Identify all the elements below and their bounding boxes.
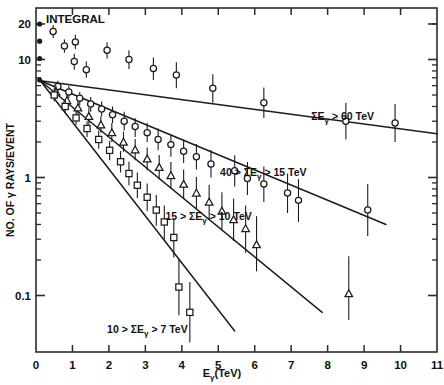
- marker-circle: [181, 148, 187, 154]
- marker-circle: [210, 85, 216, 91]
- marker-square: [144, 194, 150, 200]
- series-2: [52, 86, 352, 320]
- marker-square: [96, 136, 102, 142]
- marker-square: [134, 182, 140, 188]
- marker-circle: [99, 106, 105, 112]
- marker-triangle: [167, 172, 175, 179]
- marker-square: [73, 115, 79, 121]
- marker-triangle: [120, 138, 128, 145]
- marker-triangle: [180, 180, 188, 187]
- marker-square: [107, 147, 113, 153]
- annotation-tail: > 10 TeV: [207, 210, 252, 222]
- marker-square: [126, 170, 132, 176]
- marker-circle: [50, 28, 56, 34]
- marker-square: [153, 207, 159, 213]
- x-tick-label: 10: [394, 359, 407, 371]
- marker-circle: [173, 72, 179, 78]
- marker-square: [176, 284, 182, 290]
- marker-triangle: [242, 225, 250, 232]
- marker-circle: [261, 100, 267, 106]
- series-0: [37, 21, 398, 142]
- axis-labels: 01234567891011201010.1NO. OF γ RAYS/EVEN…: [4, 13, 444, 382]
- y-tick-label: 0.1: [15, 290, 32, 302]
- marker-square: [117, 159, 123, 165]
- marker-circle: [121, 118, 127, 124]
- axis-ticks: [36, 8, 437, 352]
- marker-square: [187, 309, 193, 315]
- plot-border: [36, 8, 437, 352]
- marker-triangle: [131, 146, 139, 153]
- y-axis-title: NO. OF γ RAYS/EVENT: [4, 122, 16, 237]
- marker-filled: [37, 56, 42, 61]
- marker-square: [171, 234, 177, 240]
- marker-circle: [168, 142, 174, 148]
- marker-triangle: [155, 164, 163, 171]
- y-tick-label: 10: [18, 54, 31, 66]
- x-tick-label: 0: [33, 359, 39, 371]
- marker-circle: [61, 43, 67, 49]
- marker-circle: [88, 101, 94, 107]
- x-tick-label: 8: [324, 359, 331, 371]
- marker-triangle: [108, 129, 116, 136]
- marker-circle: [150, 65, 156, 71]
- marker-triangle: [345, 290, 353, 297]
- marker-circle: [155, 136, 161, 142]
- marker-triangle: [85, 113, 93, 120]
- y-tick-label: 1: [25, 172, 32, 184]
- x-tick-label: 7: [288, 359, 294, 371]
- marker-triangle: [193, 189, 201, 196]
- annotation-tail: > 7 TeV: [148, 323, 187, 335]
- marker-circle: [144, 130, 150, 136]
- marker-circle: [365, 207, 371, 213]
- marker-circle: [72, 39, 78, 45]
- x-axis-title-unit: (TeV): [215, 367, 242, 379]
- marker-circle: [77, 95, 83, 101]
- marker-circle: [261, 181, 267, 187]
- marker-circle: [132, 123, 138, 129]
- marker-triangle: [143, 155, 151, 162]
- series-annotation-2: 15 > ΣEγ > 10 TeV: [165, 210, 251, 225]
- marker-circle: [295, 197, 301, 203]
- marker-circle: [193, 154, 199, 160]
- marker-triangle: [74, 104, 82, 111]
- marker-circle: [104, 47, 110, 53]
- fit-lines: [40, 81, 437, 331]
- fit-line-3: [40, 81, 234, 331]
- marker-circle: [208, 161, 214, 167]
- y-tick-label: 20: [18, 18, 31, 30]
- x-tick-label: 1: [69, 359, 76, 371]
- marker-circle: [71, 58, 77, 64]
- plot-frame: [36, 8, 437, 352]
- chart-canvas: 01234567891011201010.1NO. OF γ RAYS/EVEN…: [0, 0, 444, 385]
- x-tick-label: 6: [252, 359, 258, 371]
- x-axis-title: Eγ(TeV): [203, 367, 242, 382]
- marker-triangle: [253, 241, 261, 248]
- marker-circle: [284, 190, 290, 196]
- marker-circle: [109, 112, 115, 118]
- fit-line-2: [40, 81, 322, 313]
- series-annotation-3: 10 > ΣEγ > 7 TeV: [107, 323, 188, 338]
- marker-filled: [37, 21, 42, 26]
- x-tick-label: 11: [431, 359, 444, 371]
- series-annotation-0: ΣEγ > 60 TeV: [311, 110, 374, 125]
- x-tick-label: 2: [106, 359, 112, 371]
- marker-triangle: [205, 198, 213, 205]
- marker-filled: [37, 77, 42, 82]
- annotation-tail: > 15 TeV: [262, 166, 307, 178]
- figure-integral-gamma-ray-spectrum: 01234567891011201010.1NO. OF γ RAYS/EVEN…: [0, 0, 444, 385]
- marker-triangle: [97, 121, 105, 128]
- annotation-tail: > 60 TeV: [329, 110, 374, 122]
- data-points: [37, 21, 398, 342]
- marker-square: [51, 92, 57, 98]
- x-tick-label: 4: [179, 359, 186, 371]
- chart-title: INTEGRAL: [46, 13, 105, 25]
- marker-circle: [392, 120, 398, 126]
- marker-square: [84, 125, 90, 131]
- marker-circle: [126, 56, 132, 62]
- marker-circle: [83, 67, 89, 73]
- x-tick-label: 3: [142, 359, 148, 371]
- x-tick-label: 9: [361, 359, 367, 371]
- marker-filled: [37, 39, 42, 44]
- marker-square: [62, 103, 68, 109]
